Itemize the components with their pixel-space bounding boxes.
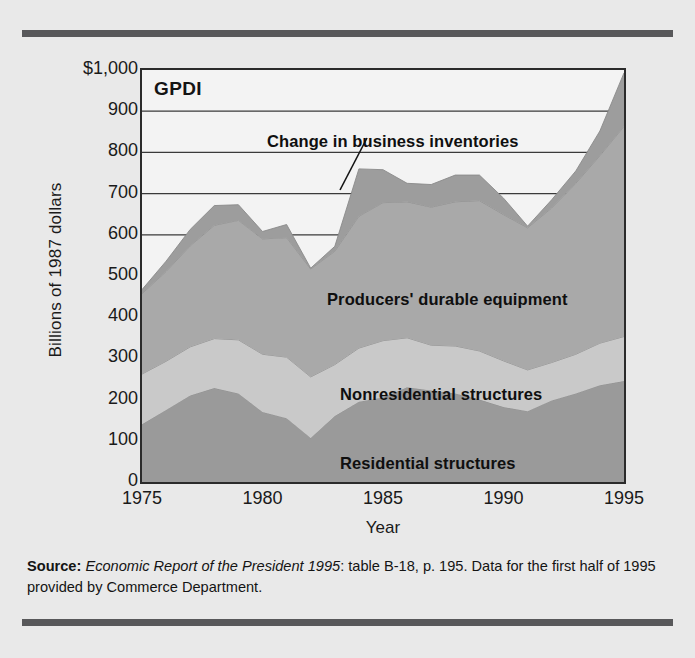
plot-tag-gpdi: GPDI — [154, 78, 202, 100]
x-tick-1980: 1980 — [242, 488, 282, 509]
top-rule — [22, 30, 673, 37]
x-tick-1990: 1990 — [483, 488, 523, 509]
y-tick-600: 600 — [108, 222, 138, 243]
y-tick-300: 300 — [108, 346, 138, 367]
y-tick-700: 700 — [108, 181, 138, 202]
source-note-label: Source: — [27, 558, 81, 574]
x-axis-tick-labels: 19751980198519901995 — [140, 488, 626, 514]
y-axis-tick-labels: $1,0009008007006005004003002001000 — [50, 44, 138, 480]
plot-region — [140, 68, 626, 484]
y-tick-500: 500 — [108, 264, 138, 285]
x-axis-title: Year — [140, 518, 626, 538]
bottom-rule — [22, 619, 673, 626]
y-tick-800: 800 — [108, 140, 138, 161]
source-note-title: Economic Report of the President 1995 — [85, 558, 340, 574]
series-label-residential-structures: Residential structures — [340, 454, 516, 473]
figure-panel: Billions of 1987 dollars $1,000900800700… — [0, 0, 695, 658]
y-tick-200: 200 — [108, 387, 138, 408]
y-tick-1000: $1,000 — [83, 58, 138, 79]
series-label-nonresidential-structures: Nonresidential structures — [340, 385, 542, 404]
source-note: Source: Economic Report of the President… — [27, 556, 657, 598]
series-label-producers-durable-equipment: Producers' durable equipment — [327, 290, 568, 309]
x-tick-1995: 1995 — [604, 488, 644, 509]
chart-area: Billions of 1987 dollars $1,000900800700… — [22, 44, 673, 544]
series-label-inventories: Change in business inventories — [267, 132, 518, 151]
y-tick-900: 900 — [108, 99, 138, 120]
y-tick-400: 400 — [108, 305, 138, 326]
x-tick-1975: 1975 — [122, 488, 162, 509]
y-tick-100: 100 — [108, 428, 138, 449]
x-tick-1985: 1985 — [363, 488, 403, 509]
